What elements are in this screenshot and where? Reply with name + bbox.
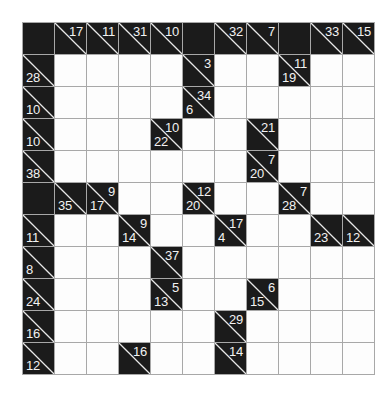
kakuro-open-cell-r8c10[interactable]: [343, 279, 375, 311]
kakuro-clue-cell-r0c4: 10: [151, 23, 183, 55]
kakuro-open-cell-r6c5[interactable]: [183, 215, 215, 247]
kakuro-open-cell-r6c7[interactable]: [247, 215, 279, 247]
kakuro-open-cell-r5c10[interactable]: [343, 183, 375, 215]
kakuro-open-cell-r4c3[interactable]: [119, 151, 151, 183]
kakuro-open-cell-r2c4[interactable]: [151, 87, 183, 119]
kakuro-open-cell-r7c8[interactable]: [279, 247, 311, 279]
kakuro-open-cell-r9c7[interactable]: [247, 311, 279, 343]
kakuro-open-cell-r1c7[interactable]: [247, 55, 279, 87]
kakuro-row: 24513615: [23, 279, 375, 311]
kakuro-open-cell-r7c7[interactable]: [247, 247, 279, 279]
kakuro-open-cell-r10c9[interactable]: [311, 343, 343, 375]
kakuro-open-cell-r2c7[interactable]: [247, 87, 279, 119]
kakuro-open-cell-r4c1[interactable]: [55, 151, 87, 183]
kakuro-open-cell-r1c4[interactable]: [151, 55, 183, 87]
kakuro-open-cell-r9c9[interactable]: [311, 311, 343, 343]
kakuro-open-cell-r10c5[interactable]: [183, 343, 215, 375]
kakuro-clue-cell-r0c6: 32: [215, 23, 247, 55]
kakuro-open-cell-r1c6[interactable]: [215, 55, 247, 87]
kakuro-clue-cell-r2c0: 10: [23, 87, 55, 119]
down-clue-r0c6: 32: [229, 25, 243, 38]
kakuro-open-cell-r7c9[interactable]: [311, 247, 343, 279]
kakuro-open-cell-r3c6[interactable]: [215, 119, 247, 151]
kakuro-open-cell-r9c5[interactable]: [183, 311, 215, 343]
kakuro-open-cell-r2c6[interactable]: [215, 87, 247, 119]
kakuro-open-cell-r3c9[interactable]: [311, 119, 343, 151]
down-clue-r10c6: 14: [229, 345, 243, 358]
kakuro-open-cell-r6c4[interactable]: [151, 215, 183, 247]
kakuro-open-cell-r10c8[interactable]: [279, 343, 311, 375]
kakuro-open-cell-r8c1[interactable]: [55, 279, 87, 311]
down-clue-r4c7: 7: [268, 153, 275, 166]
kakuro-open-cell-r8c6[interactable]: [215, 279, 247, 311]
kakuro-grid[interactable]: 1711311032733152831119103461010222138720…: [22, 22, 375, 375]
down-clue-r0c9: 33: [325, 25, 339, 38]
down-clue-r6c3: 9: [140, 217, 147, 230]
kakuro-open-cell-r10c4[interactable]: [151, 343, 183, 375]
kakuro-grid-body: 1711311032733152831119103461010222138720…: [23, 23, 375, 375]
down-clue-r0c7: 7: [268, 25, 275, 38]
kakuro-open-cell-r3c3[interactable]: [119, 119, 151, 151]
kakuro-open-cell-r2c10[interactable]: [343, 87, 375, 119]
kakuro-puzzle[interactable]: 1711311032733152831119103461010222138720…: [22, 22, 375, 375]
kakuro-open-cell-r3c5[interactable]: [183, 119, 215, 151]
kakuro-open-cell-r3c8[interactable]: [279, 119, 311, 151]
down-clue-r5c5: 12: [197, 185, 211, 198]
kakuro-open-cell-r4c10[interactable]: [343, 151, 375, 183]
kakuro-open-cell-r6c1[interactable]: [55, 215, 87, 247]
kakuro-open-cell-r1c2[interactable]: [87, 55, 119, 87]
kakuro-open-cell-r2c2[interactable]: [87, 87, 119, 119]
kakuro-open-cell-r8c2[interactable]: [87, 279, 119, 311]
kakuro-open-cell-r5c6[interactable]: [215, 183, 247, 215]
kakuro-open-cell-r10c10[interactable]: [343, 343, 375, 375]
kakuro-open-cell-r9c3[interactable]: [119, 311, 151, 343]
kakuro-open-cell-r8c5[interactable]: [183, 279, 215, 311]
kakuro-open-cell-r4c5[interactable]: [183, 151, 215, 183]
kakuro-open-cell-r7c10[interactable]: [343, 247, 375, 279]
kakuro-open-cell-r3c10[interactable]: [343, 119, 375, 151]
down-clue-r6c6: 17: [229, 217, 243, 230]
kakuro-open-cell-r1c10[interactable]: [343, 55, 375, 87]
kakuro-row: 171131103273315: [23, 23, 375, 55]
kakuro-open-cell-r9c1[interactable]: [55, 311, 87, 343]
kakuro-open-cell-r1c3[interactable]: [119, 55, 151, 87]
kakuro-open-cell-r10c2[interactable]: [87, 343, 119, 375]
kakuro-open-cell-r3c2[interactable]: [87, 119, 119, 151]
kakuro-open-cell-r1c9[interactable]: [311, 55, 343, 87]
kakuro-clue-cell-r7c4: 37: [151, 247, 183, 279]
kakuro-open-cell-r2c3[interactable]: [119, 87, 151, 119]
kakuro-open-cell-r10c7[interactable]: [247, 343, 279, 375]
kakuro-open-cell-r9c8[interactable]: [279, 311, 311, 343]
kakuro-open-cell-r8c8[interactable]: [279, 279, 311, 311]
kakuro-open-cell-r2c8[interactable]: [279, 87, 311, 119]
kakuro-open-cell-r2c9[interactable]: [311, 87, 343, 119]
kakuro-clue-cell-r0c10: 15: [343, 23, 375, 55]
kakuro-open-cell-r7c6[interactable]: [215, 247, 247, 279]
kakuro-open-cell-r8c9[interactable]: [311, 279, 343, 311]
kakuro-open-cell-r5c3[interactable]: [119, 183, 151, 215]
kakuro-open-cell-r4c9[interactable]: [311, 151, 343, 183]
kakuro-open-cell-r4c8[interactable]: [279, 151, 311, 183]
kakuro-open-cell-r9c10[interactable]: [343, 311, 375, 343]
kakuro-open-cell-r5c4[interactable]: [151, 183, 183, 215]
kakuro-open-cell-r9c2[interactable]: [87, 311, 119, 343]
kakuro-open-cell-r6c2[interactable]: [87, 215, 119, 247]
kakuro-open-cell-r7c3[interactable]: [119, 247, 151, 279]
kakuro-open-cell-r7c2[interactable]: [87, 247, 119, 279]
kakuro-open-cell-r2c1[interactable]: [55, 87, 87, 119]
kakuro-open-cell-r8c3[interactable]: [119, 279, 151, 311]
kakuro-open-cell-r4c4[interactable]: [151, 151, 183, 183]
kakuro-open-cell-r7c1[interactable]: [55, 247, 87, 279]
kakuro-open-cell-r1c1[interactable]: [55, 55, 87, 87]
across-clue-r9c0: 16: [26, 327, 40, 340]
kakuro-open-cell-r7c5[interactable]: [183, 247, 215, 279]
kakuro-open-cell-r3c1[interactable]: [55, 119, 87, 151]
kakuro-open-cell-r10c1[interactable]: [55, 343, 87, 375]
kakuro-open-cell-r5c9[interactable]: [311, 183, 343, 215]
kakuro-open-cell-r5c7[interactable]: [247, 183, 279, 215]
kakuro-open-cell-r4c2[interactable]: [87, 151, 119, 183]
kakuro-open-cell-r9c4[interactable]: [151, 311, 183, 343]
across-clue-r10c0: 12: [26, 359, 40, 372]
kakuro-open-cell-r4c6[interactable]: [215, 151, 247, 183]
kakuro-open-cell-r6c8[interactable]: [279, 215, 311, 247]
